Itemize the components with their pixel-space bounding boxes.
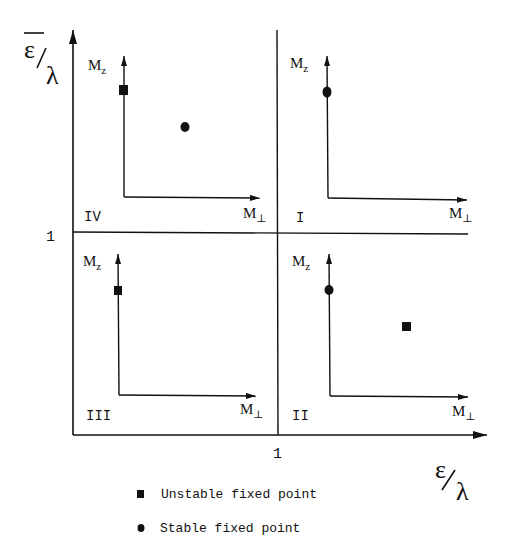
quadrant-label-iii: III (86, 408, 111, 424)
legend-circle-icon (138, 524, 145, 532)
svg-text:ε: ε (435, 455, 446, 484)
unstable-fixed-point (119, 85, 128, 95)
quadrant-label-i: I (296, 210, 304, 226)
mperp-label: M⊥ (449, 205, 473, 224)
legend-unstable-label: Unstable fixed point (161, 487, 317, 502)
quadrant-ii: Mz M⊥ II (292, 253, 476, 424)
legend-square-icon (137, 490, 144, 498)
horizontal-divider (73, 232, 468, 234)
quadrant-label-ii: II (292, 408, 309, 424)
mperp-label: M⊥ (452, 403, 476, 422)
stable-fixed-point (323, 87, 332, 98)
unstable-fixed-point (114, 286, 122, 295)
phase-diagram: 1 1 ε λ ε λ Mz M⊥ IV Mz M⊥ I Mz M⊥ III (0, 0, 512, 555)
quadrant-label-iv: IV (84, 209, 101, 225)
x-axis-label: ε λ (435, 455, 469, 506)
y-axis-label: ε λ (24, 33, 59, 90)
mz-label: Mz (290, 55, 308, 74)
quadrant-iv: Mz M⊥ IV (84, 56, 267, 225)
stable-fixed-point (325, 285, 334, 295)
mz-label: Mz (292, 253, 310, 272)
y-tick-1: 1 (46, 229, 55, 246)
mz-label: Mz (83, 253, 101, 272)
quadrant-iii: Mz M⊥ III (83, 253, 264, 424)
mperp-label: M⊥ (243, 205, 267, 224)
svg-text:ε: ε (24, 35, 35, 64)
svg-text:λ: λ (46, 61, 59, 90)
mz-label: Mz (88, 57, 106, 76)
quadrant-i: Mz M⊥ I (290, 55, 473, 226)
stable-fixed-point (181, 122, 190, 132)
svg-text:λ: λ (456, 477, 469, 506)
legend-stable-label: Stable fixed point (160, 521, 300, 536)
unstable-fixed-point (402, 322, 411, 331)
legend: Unstable fixed point Stable fixed point (137, 487, 317, 536)
x-tick-1: 1 (273, 446, 282, 463)
mperp-label: M⊥ (240, 401, 264, 420)
